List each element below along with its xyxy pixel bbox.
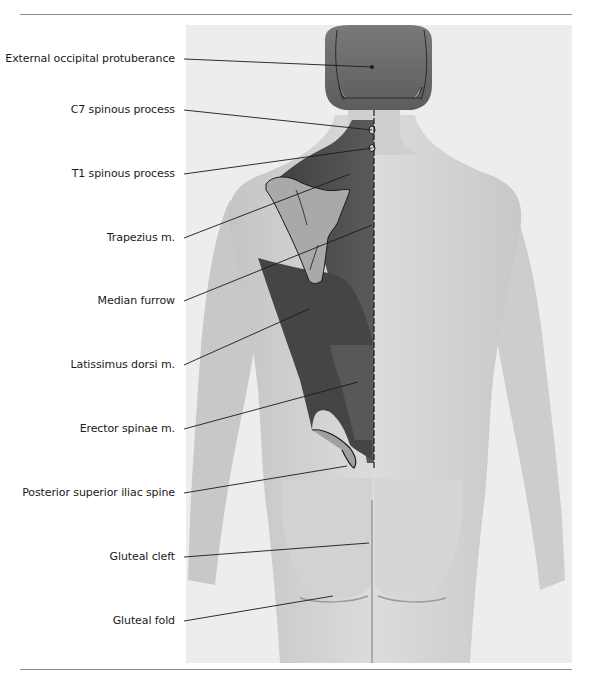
bottom-rule xyxy=(20,669,572,670)
label-trapezius: Trapezius m. xyxy=(107,231,175,244)
head xyxy=(325,25,432,110)
label-erector-spinae: Erector spinae m. xyxy=(80,422,175,435)
label-posterior-superior-iliac-spine: Posterior superior iliac spine xyxy=(22,486,175,499)
label-external-occipital-protuberance: External occipital protuberance xyxy=(5,52,175,65)
label-c7-spinous-process: C7 spinous process xyxy=(71,103,175,116)
label-gluteal-cleft: Gluteal cleft xyxy=(110,550,176,563)
label-median-furrow: Median furrow xyxy=(98,294,175,307)
label-t1-spinous-process: T1 spinous process xyxy=(72,167,175,180)
label-gluteal-fold: Gluteal fold xyxy=(113,614,175,627)
label-latissimus-dorsi: Latissimus dorsi m. xyxy=(70,358,175,371)
